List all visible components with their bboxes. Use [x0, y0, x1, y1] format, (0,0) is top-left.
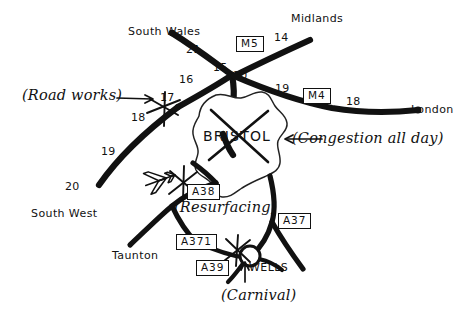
place-label-london: London: [411, 104, 454, 115]
road-shield-m5: M5: [236, 36, 264, 52]
place-label-south-west: South West: [31, 208, 98, 219]
road-shield-a39: A39: [196, 260, 229, 276]
junction-number-14: 14: [274, 32, 289, 43]
junction-number-19-m4: 19: [275, 83, 290, 94]
junction-number-20-sw: 20: [65, 181, 80, 192]
junction-number-18: 18: [131, 112, 146, 123]
annotation-carnival: (Carnival): [221, 288, 296, 303]
annotation-resurfacing: (Resurfacing): [174, 200, 277, 215]
place-label-south-wales: South Wales: [128, 26, 200, 37]
road-shield-m4: M4: [303, 88, 331, 104]
junction-number-16: 16: [179, 74, 194, 85]
junction-number-15: 15: [213, 62, 228, 73]
place-label-wells: WELLS: [249, 262, 288, 273]
junction-number-20: 20: [233, 70, 248, 81]
road-works-arrow-icon: [117, 95, 153, 103]
road-bristol-to-wells: [252, 176, 274, 255]
place-label-taunton: Taunton: [112, 250, 158, 261]
place-label-midlands: Midlands: [291, 13, 343, 24]
hand-drawn-road-map: South Wales Midlands London South West T…: [0, 0, 459, 317]
annotation-road-works: (Road works): [22, 88, 122, 103]
road-shield-a371: A371: [176, 234, 217, 250]
city-label-bristol: BRISTOL: [203, 129, 271, 143]
junction-number-17: 17: [160, 92, 175, 103]
road-shield-a37: A37: [278, 213, 311, 229]
junction-number-18-m4: 18: [346, 96, 361, 107]
map-canvas: [0, 0, 459, 317]
annotation-congestion: (Congestion all day): [292, 131, 444, 146]
junction-number-19: 19: [101, 146, 116, 157]
road-shield-a38: A38: [187, 184, 220, 200]
junction-number-21: 21: [186, 44, 201, 55]
